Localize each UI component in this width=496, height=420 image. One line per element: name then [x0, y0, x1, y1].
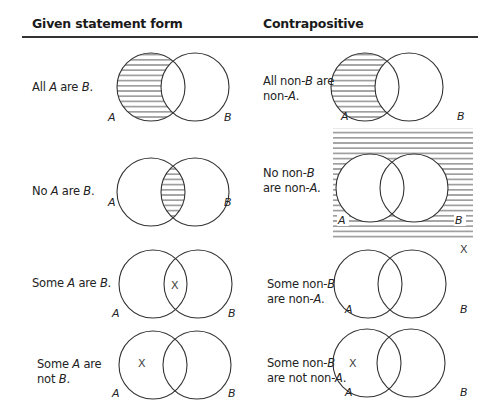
- label-b: B: [455, 214, 463, 227]
- label-b: B: [460, 386, 468, 399]
- venn-some-non-b-are-non-a: X A B: [334, 243, 468, 318]
- venn-no-non-b-are-non-a: A B: [333, 128, 473, 241]
- shaded-region: [320, 40, 420, 140]
- x-mark: X: [171, 279, 179, 292]
- venn-diagrams: A B A B A B A B X A B X A: [0, 0, 496, 420]
- label-b: B: [224, 111, 232, 124]
- label-a: A: [340, 110, 349, 123]
- circle-b: [378, 250, 446, 318]
- label-a: A: [344, 303, 353, 316]
- x-mark: X: [138, 357, 146, 370]
- label-a: A: [337, 214, 346, 227]
- venn-some-a-are-b: X A B: [111, 250, 236, 320]
- venn-no-a-are-b: A B: [107, 158, 232, 226]
- label-a: A: [107, 111, 116, 124]
- x-mark: X: [349, 357, 357, 370]
- circle-a: [333, 329, 401, 397]
- label-b: B: [228, 307, 236, 320]
- label-a: A: [111, 387, 120, 400]
- label-a: A: [107, 196, 116, 209]
- venn-all-a-are-b: A B: [100, 40, 232, 140]
- label-b: B: [224, 196, 232, 209]
- label-b: B: [228, 387, 236, 400]
- label-a: A: [344, 386, 353, 399]
- circle-b: [163, 331, 231, 399]
- label-b: B: [457, 110, 465, 123]
- circle-a: [336, 154, 404, 222]
- label-b: B: [460, 303, 468, 316]
- venn-all-non-b-are-non-a: A B: [320, 40, 465, 140]
- circle-a: [119, 331, 187, 399]
- x-mark: X: [460, 243, 468, 256]
- venn-some-non-b-are-not-non-a: X A B: [333, 329, 468, 399]
- label-a: A: [111, 307, 120, 320]
- venn-some-a-are-not-b: X A B: [111, 331, 236, 400]
- circle-b: [377, 329, 445, 397]
